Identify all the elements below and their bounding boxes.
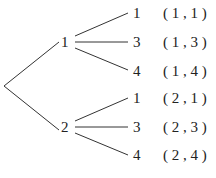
edge-2-4 bbox=[75, 133, 128, 155]
edge-2-1 bbox=[75, 98, 128, 121]
node-level1-1: 1 bbox=[61, 35, 69, 50]
leaf-1-3: 3 bbox=[133, 35, 141, 50]
pair-2-4: ( 2 , 4 ) bbox=[163, 148, 207, 163]
pair-1-3: ( 1 , 3 ) bbox=[163, 35, 207, 50]
edge-1-1 bbox=[75, 13, 128, 36]
edge-root-1 bbox=[4, 42, 59, 86]
leaf-1-4: 4 bbox=[133, 64, 141, 79]
pair-1-4: ( 1 , 4 ) bbox=[163, 64, 207, 79]
leaf-2-4: 4 bbox=[133, 148, 141, 163]
leaf-1-1: 1 bbox=[133, 6, 141, 21]
leaf-2-1: 1 bbox=[133, 91, 141, 106]
edge-root-2 bbox=[4, 86, 59, 130]
pair-1-1: ( 1 , 1 ) bbox=[163, 6, 207, 21]
pair-2-1: ( 2 , 1 ) bbox=[163, 91, 207, 106]
leaf-2-3: 3 bbox=[133, 120, 141, 135]
pair-2-3: ( 2 , 3 ) bbox=[163, 120, 207, 135]
edge-1-4 bbox=[75, 48, 128, 70]
node-level1-2: 2 bbox=[61, 120, 69, 135]
